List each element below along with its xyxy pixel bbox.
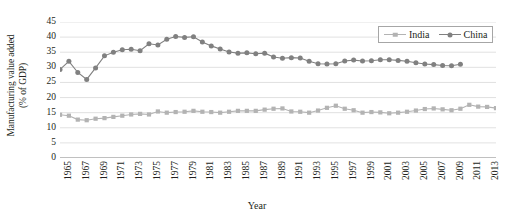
data-point-china [111, 50, 116, 55]
data-point-china [324, 62, 329, 67]
data-point-india [111, 115, 115, 119]
data-point-india [218, 111, 222, 115]
data-point-china [316, 61, 321, 66]
y-tick-label: 25 [47, 78, 57, 88]
y-tick-label: 30 [47, 63, 57, 73]
data-point-china [235, 51, 240, 56]
legend-swatch-india [384, 30, 406, 39]
data-point-china [146, 41, 151, 46]
y-tick-label: 0 [51, 153, 56, 163]
x-tick-label: 2003 [402, 161, 412, 180]
data-point-china [253, 51, 258, 56]
data-point-china [449, 63, 454, 68]
data-point-india [182, 110, 186, 114]
data-point-china [413, 60, 418, 65]
x-tick-label: 1981 [206, 161, 216, 180]
data-point-india [263, 108, 267, 112]
data-point-india [85, 118, 89, 122]
data-point-china [440, 63, 445, 68]
x-tick-label: 2009 [456, 161, 466, 180]
x-tick-label: 1979 [189, 161, 199, 180]
data-point-china [431, 62, 436, 67]
data-point-india [405, 110, 409, 114]
data-point-india [458, 107, 462, 111]
legend-marker-square-icon [393, 32, 398, 37]
x-tick-label: 1995 [331, 161, 341, 180]
x-tick-label: 2007 [438, 161, 448, 180]
data-point-india [236, 109, 240, 113]
data-point-china [333, 61, 338, 66]
x-tick-label: 1969 [100, 161, 110, 180]
x-tick-label: 1973 [135, 161, 145, 180]
data-point-china [298, 55, 303, 60]
data-point-india [227, 110, 231, 114]
data-point-india [369, 110, 373, 114]
data-point-india [174, 110, 178, 114]
data-point-china [84, 77, 89, 82]
data-point-india [485, 105, 489, 109]
data-point-india [307, 111, 311, 115]
data-point-china [387, 57, 392, 62]
y-tick-label: 5 [51, 138, 56, 148]
x-tick-label: 1975 [153, 161, 163, 180]
data-point-china [405, 59, 410, 64]
x-tick-label: 2011 [473, 161, 483, 180]
data-point-india [191, 109, 195, 113]
x-tick-label: 1983 [224, 161, 234, 180]
data-point-china [360, 58, 365, 63]
data-point-india [343, 107, 347, 111]
data-point-china [173, 34, 178, 39]
data-point-india [165, 111, 169, 115]
data-point-china [218, 46, 223, 51]
data-point-china [280, 56, 285, 61]
data-point-china [138, 48, 143, 53]
data-point-india [325, 106, 329, 110]
y-tick-label: 45 [47, 17, 57, 27]
y-axis-title-line1: Manufacturing value added [7, 34, 19, 136]
x-tick-label: 2013 [491, 161, 501, 180]
data-point-china [155, 42, 160, 47]
data-point-india [147, 112, 151, 116]
data-point-china [200, 39, 205, 44]
data-point-india [387, 111, 391, 115]
data-point-india [280, 106, 284, 110]
legend-label-china: China [464, 30, 488, 40]
legend-item-india[interactable]: India [384, 30, 430, 40]
data-point-china [369, 58, 374, 63]
data-point-india [432, 106, 436, 110]
data-point-china [351, 58, 356, 63]
x-tick-label: 1993 [313, 161, 323, 180]
data-point-china [75, 70, 80, 75]
data-point-india [423, 107, 427, 111]
data-point-india [378, 110, 382, 114]
data-point-china [191, 34, 196, 39]
data-point-india [441, 107, 445, 111]
x-tick-label: 1997 [349, 161, 359, 180]
data-point-china [262, 51, 267, 56]
data-point-china [244, 50, 249, 55]
x-axis-tick-labels: 1965196719691971197319751977197919811983… [60, 158, 496, 200]
data-point-india [360, 111, 364, 115]
data-point-india [120, 114, 124, 118]
x-axis-title: Year [0, 200, 514, 212]
y-tick-label: 20 [47, 93, 57, 103]
data-point-india [129, 112, 133, 116]
data-point-india [200, 110, 204, 114]
legend-item-china[interactable]: China [439, 30, 488, 40]
data-point-india [396, 111, 400, 115]
data-point-china [120, 47, 125, 52]
data-point-india [414, 108, 418, 112]
data-point-china [307, 59, 312, 64]
data-point-india [476, 105, 480, 109]
data-point-india [245, 109, 249, 113]
y-axis-title: Manufacturing value added (% of GDP) [0, 0, 36, 170]
data-point-china [422, 62, 427, 67]
data-point-india [298, 110, 302, 114]
y-tick-label: 35 [47, 47, 57, 57]
x-tick-label: 2005 [420, 161, 430, 180]
data-point-india [316, 108, 320, 112]
data-point-china [66, 59, 71, 64]
data-point-china [227, 49, 232, 54]
data-point-china [342, 58, 347, 63]
data-point-india [334, 104, 338, 108]
